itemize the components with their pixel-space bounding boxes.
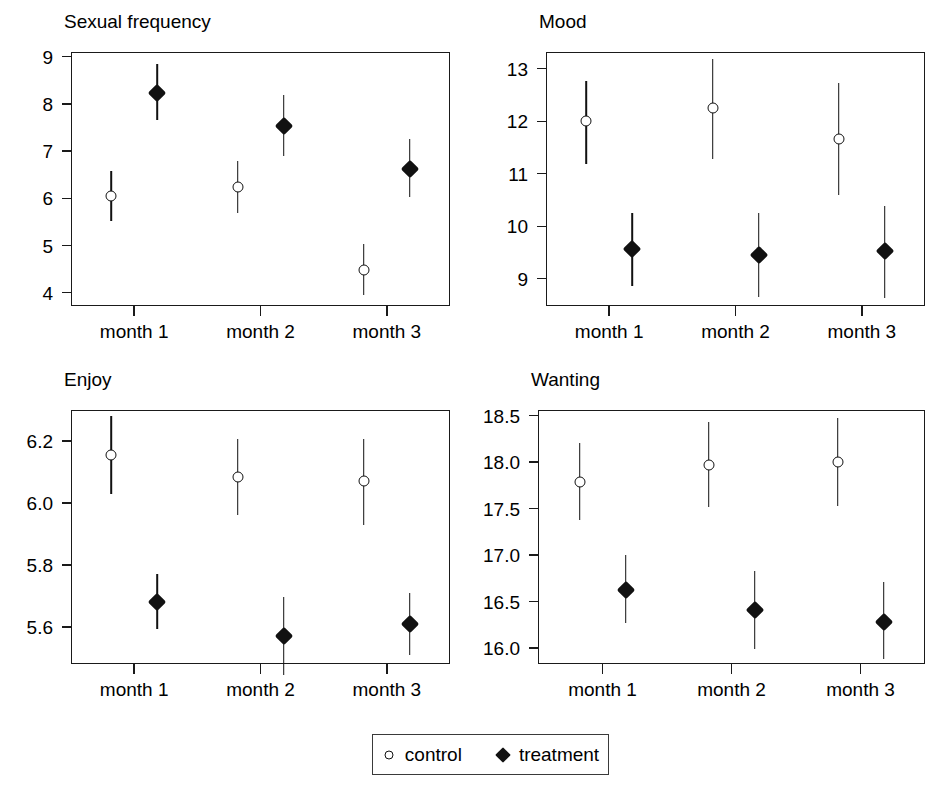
- y-axis-tick-label: 5.6: [0, 617, 53, 636]
- y-axis-tick: [62, 198, 71, 199]
- x-axis-tick-label: month 3: [353, 680, 422, 699]
- plot-frame-1: [546, 52, 925, 306]
- x-axis-tick-label: month 1: [568, 680, 637, 699]
- y-axis-tick: [537, 68, 546, 69]
- y-axis-tick-label: 5: [0, 236, 53, 255]
- data-point-control: [703, 459, 714, 470]
- data-point-control: [833, 134, 844, 145]
- legend: control treatment: [372, 734, 609, 775]
- data-point-control: [574, 476, 585, 487]
- y-axis-tick-label: 7: [0, 142, 53, 161]
- y-axis-tick-label: 5.8: [0, 555, 53, 574]
- x-axis-tick-label: month 3: [353, 322, 422, 341]
- data-point-control: [232, 471, 243, 482]
- y-axis-tick-label: 4: [0, 283, 53, 302]
- y-axis-tick-label: 12: [460, 112, 528, 131]
- y-axis-tick-label: 10: [460, 217, 528, 236]
- y-axis-tick: [537, 226, 546, 227]
- y-axis-tick-label: 9: [0, 47, 53, 66]
- x-axis-tick-label: month 1: [100, 322, 169, 341]
- y-axis-tick: [529, 508, 538, 509]
- legend-label-treatment: treatment: [519, 745, 599, 764]
- y-axis-tick-label: 16.0: [452, 639, 520, 658]
- y-axis-tick: [62, 150, 71, 151]
- y-axis-tick-label: 6.2: [0, 431, 53, 450]
- x-axis-tick-label: month 1: [575, 322, 644, 341]
- x-axis-tick-label: month 3: [828, 322, 897, 341]
- x-axis-tick: [260, 664, 261, 674]
- x-axis-tick: [602, 664, 603, 674]
- data-point-control: [106, 449, 117, 460]
- y-axis-tick: [529, 461, 538, 462]
- x-axis-tick-label: month 2: [226, 322, 295, 341]
- data-point-control: [232, 182, 243, 193]
- y-axis-tick: [62, 292, 71, 293]
- x-axis-tick: [386, 664, 387, 674]
- y-axis-tick-label: 13: [460, 59, 528, 78]
- y-axis-tick: [62, 626, 71, 627]
- data-point-control: [581, 116, 592, 127]
- y-axis-tick: [62, 440, 71, 441]
- data-point-control: [358, 475, 369, 486]
- x-axis-tick-label: month 3: [826, 680, 895, 699]
- y-axis-tick: [529, 554, 538, 555]
- y-axis-tick-label: 9: [460, 269, 528, 288]
- x-axis-tick: [133, 306, 134, 316]
- x-axis-tick: [731, 664, 732, 674]
- y-axis-tick: [62, 502, 71, 503]
- x-axis-tick: [608, 306, 609, 316]
- y-axis-tick-label: 16.5: [452, 592, 520, 611]
- plot-frame-2: [71, 410, 450, 664]
- y-axis-tick: [529, 415, 538, 416]
- data-point-control: [106, 190, 117, 201]
- y-axis-tick: [537, 121, 546, 122]
- y-axis-tick-label: 17.0: [452, 546, 520, 565]
- y-axis-tick-label: 8: [0, 94, 53, 113]
- x-axis-tick: [133, 664, 134, 674]
- x-axis-tick: [735, 306, 736, 316]
- y-axis-tick: [62, 564, 71, 565]
- data-point-control: [707, 103, 718, 114]
- figure-canvas: Sexual frequency987654month 1month 2mont…: [0, 0, 949, 809]
- panel-title-1: Mood: [539, 12, 587, 31]
- filled-diamond-icon: [496, 748, 510, 762]
- y-axis-tick-label: 11: [460, 164, 528, 183]
- y-axis-tick-label: 18.0: [452, 453, 520, 472]
- data-point-control: [358, 265, 369, 276]
- plot-frame-3: [538, 410, 925, 664]
- y-axis-tick: [529, 647, 538, 648]
- y-axis-tick: [62, 245, 71, 246]
- x-axis-tick: [860, 664, 861, 674]
- x-axis-tick-label: month 2: [226, 680, 295, 699]
- panel-title-2: Enjoy: [64, 370, 112, 389]
- y-axis-tick-label: 18.5: [452, 406, 520, 425]
- panel-title-0: Sexual frequency: [64, 12, 211, 31]
- panel-title-3: Wanting: [531, 370, 600, 389]
- legend-entry-control: control: [382, 745, 462, 764]
- y-axis-tick: [62, 103, 71, 104]
- y-axis-tick: [62, 56, 71, 57]
- y-axis-tick-label: 17.5: [452, 499, 520, 518]
- x-axis-tick: [260, 306, 261, 316]
- legend-label-control: control: [405, 745, 462, 764]
- x-axis-tick-label: month 2: [697, 680, 766, 699]
- plot-frame-0: [71, 52, 450, 306]
- x-axis-tick-label: month 1: [100, 680, 169, 699]
- y-axis-tick: [537, 278, 546, 279]
- open-circle-icon: [382, 748, 396, 762]
- y-axis-tick: [537, 173, 546, 174]
- y-axis-tick-label: 6.0: [0, 493, 53, 512]
- x-axis-tick: [861, 306, 862, 316]
- x-axis-tick-label: month 2: [701, 322, 770, 341]
- x-axis-tick: [386, 306, 387, 316]
- legend-entry-treatment: treatment: [496, 745, 599, 764]
- y-axis-tick-label: 6: [0, 189, 53, 208]
- data-point-control: [832, 457, 843, 468]
- y-axis-tick: [529, 601, 538, 602]
